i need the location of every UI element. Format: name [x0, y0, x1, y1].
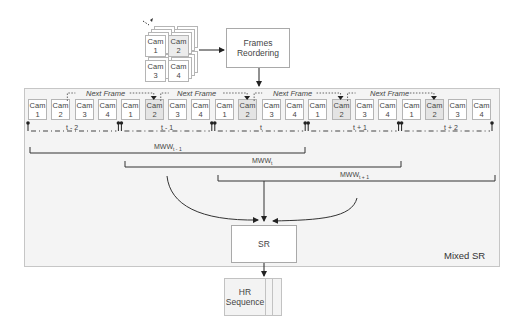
next-frame-arrow — [67, 93, 153, 101]
frame-boundary-pin-head — [213, 121, 217, 125]
bracket-mww-t — [125, 161, 401, 167]
frame-boundary-pin-head — [490, 121, 494, 125]
next-frame-arrowhead — [338, 96, 344, 100]
bracket-mww-t-minus-1 — [30, 147, 305, 153]
frame-boundary-pin-head — [26, 121, 30, 125]
motion-arrowhead — [150, 18, 153, 22]
frame-boundary-pin-head — [400, 121, 404, 125]
frame-boundary-pin-head — [120, 121, 124, 125]
curve-arrow-left — [167, 176, 258, 220]
next-frame-arrowhead — [431, 96, 437, 100]
bracket-mww-t-plus-1 — [218, 175, 495, 181]
connectors — [0, 0, 520, 336]
sequence-marks — [26, 93, 494, 131]
next-frame-arrowhead — [244, 96, 250, 100]
next-frame-arrow — [161, 93, 247, 101]
motion-mark — [143, 21, 149, 25]
frame-boundary-pin-head — [306, 121, 310, 125]
curve-arrow-right — [273, 198, 357, 221]
next-frame-arrow — [348, 93, 434, 101]
next-frame-arrow — [254, 93, 340, 101]
next-frame-arrowhead — [151, 96, 157, 100]
